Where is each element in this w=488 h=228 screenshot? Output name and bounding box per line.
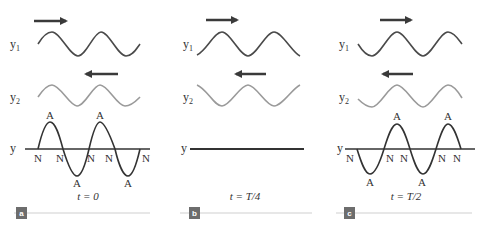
wave-y1 — [38, 32, 140, 56]
time-caption: t = T/4 — [230, 190, 261, 202]
svg-text:N: N — [34, 152, 42, 164]
y2-label: y2 — [339, 90, 349, 106]
time-caption: t = T/2 — [391, 190, 422, 202]
svg-text:N: N — [453, 152, 461, 164]
resultant-label: y — [10, 141, 16, 155]
svg-text:b: b — [192, 209, 197, 218]
y1-label: y1 — [339, 37, 349, 53]
svg-text:A: A — [366, 176, 374, 188]
svg-text:c: c — [347, 209, 352, 218]
panel-a: y1 y2 y A A A A N N N N N t = 0 a — [10, 21, 150, 219]
time-caption: t = 0 — [77, 190, 99, 202]
svg-text:a: a — [19, 209, 24, 218]
svg-text:N: N — [438, 152, 446, 164]
svg-text:A: A — [96, 109, 104, 121]
wave-y2 — [358, 85, 462, 107]
resultant-label: y — [337, 141, 343, 155]
panel-b: y1 y2 y t = T/4 b — [180, 20, 312, 219]
panel-c: y1 y2 y A A A A N N N N N t = T/2 c — [336, 20, 475, 219]
node-labels: N N N N N — [34, 152, 150, 164]
svg-text:A: A — [73, 177, 81, 189]
resultant-label: y — [181, 141, 187, 155]
svg-text:A: A — [124, 177, 132, 189]
svg-text:N: N — [142, 152, 150, 164]
y1-label: y1 — [183, 37, 193, 53]
standing-wave-diagram: y1 y2 y A A A A N N N N N t = 0 a y1 y2 — [0, 0, 488, 228]
wave-y2 — [197, 85, 300, 106]
svg-text:N: N — [346, 152, 354, 164]
y2-label: y2 — [10, 90, 20, 106]
svg-text:N: N — [87, 152, 95, 164]
wave-y2 — [38, 85, 140, 106]
wave-y1 — [197, 32, 300, 56]
svg-text:A: A — [46, 109, 54, 121]
svg-text:A: A — [418, 176, 426, 188]
y1-label: y1 — [10, 37, 20, 53]
svg-text:N: N — [386, 152, 394, 164]
svg-text:A: A — [444, 110, 452, 122]
svg-text:N: N — [400, 152, 408, 164]
node-labels: N N N N N — [346, 152, 461, 164]
svg-text:N: N — [105, 152, 113, 164]
wave-y1 — [358, 32, 462, 56]
y2-label: y2 — [183, 90, 193, 106]
svg-text:N: N — [56, 152, 64, 164]
svg-text:A: A — [393, 110, 401, 122]
